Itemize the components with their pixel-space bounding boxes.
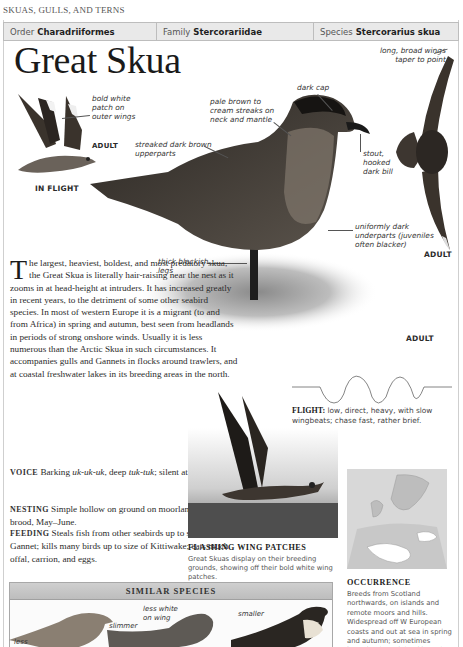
label-adult-overhead: ADULT [424,250,452,259]
callout-less: less [14,638,28,647]
label-in-flight: IN FLIGHT [35,184,79,193]
callout-stout-bill: stout,hookeddark bill [363,149,393,176]
callout-streaked-upperparts: streaked dark brownupperparts [135,140,212,158]
running-head: SKUAS, GULLS, AND TERNS [3,5,125,15]
wing-display-photo [188,388,338,538]
callout-pale-streaks: pale brown tocream streaks onneck and ma… [210,97,274,124]
callout-smaller: smaller [238,610,264,619]
callout-less-white: less whiteon wing [143,605,178,623]
drop-cap: T [10,259,27,281]
leader-line [360,134,361,152]
occurrence-text: Breeds from Scotland northwards, on isla… [347,590,459,647]
callout-dark-cap: dark cap [297,83,329,92]
page-title: Great Skua [14,38,181,82]
leader-line [328,230,353,231]
label-adult-standing: ADULT [406,334,434,343]
taxonomy-species: SpeciesStercorarius skua [314,23,458,40]
callout-long-wings: long, broad wingstaper to point [380,46,446,64]
photo-caption-text: Great Skuas display on their breeding gr… [188,555,348,583]
skua-overhead-illustration [392,56,458,256]
similar-species-header: SIMILAR SPECIES [10,583,332,600]
range-map [347,469,447,569]
skua-in-flight-illustration [10,88,100,178]
callout-slimmer: slimmer [109,622,137,631]
occurrence-title: OCCURRENCE [347,578,411,587]
species-description: The largest, heaviest, boldest, and most… [10,257,238,380]
photo-caption-title: FLASHING WING PATCHES [188,543,306,552]
